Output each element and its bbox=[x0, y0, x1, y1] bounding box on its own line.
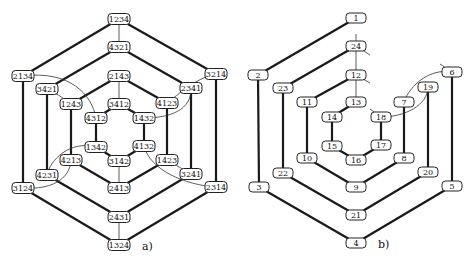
diagram-canvas: 1234432121343214214334212341124334124123… bbox=[0, 0, 474, 262]
caption-a: a) bbox=[142, 240, 153, 253]
caption-b: b) bbox=[378, 238, 389, 251]
caption-layer: a) b) bbox=[0, 0, 474, 262]
